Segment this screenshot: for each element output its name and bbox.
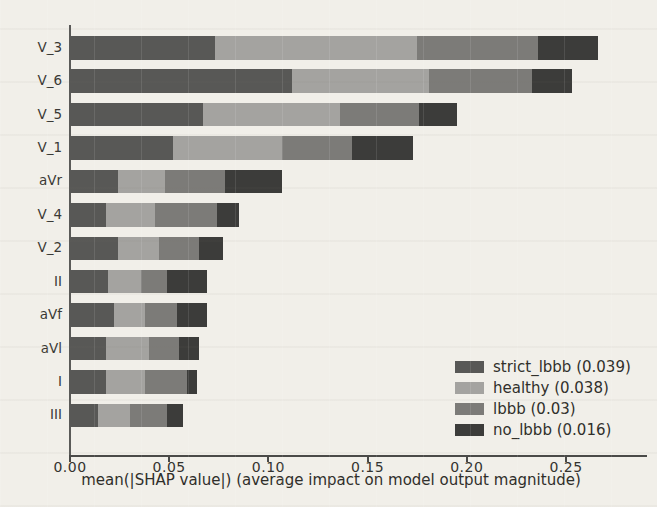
bar-segment-II-no_lbbb [167,270,207,294]
legend-label-no_lbbb: no_lbbb (0.016) [493,421,611,439]
bar-segment-V_6-healthy [292,69,429,93]
bar-segment-I-lbbb [145,370,187,394]
bar-segment-V_6-lbbb [429,69,532,93]
bar-segment-V_2-lbbb [159,237,199,261]
legend-item-healthy: healthy (0.038) [455,380,631,396]
bar-V_4 [70,203,239,227]
bar-segment-V_1-lbbb [282,136,351,160]
bar-V_5 [70,103,457,127]
bar-segment-aVf-healthy [114,303,146,327]
bar-segment-III-strict_lbbb [70,404,98,428]
bar-III [70,404,183,428]
bar-V_3 [70,36,598,60]
bar-segment-V_4-healthy [106,203,156,227]
bar-segment-V_3-no_lbbb [538,36,598,60]
bar-segment-V_4-no_lbbb [217,203,239,227]
bar-I [70,370,197,394]
bar-segment-aVr-strict_lbbb [70,170,118,194]
bar-segment-V_1-no_lbbb [352,136,414,160]
bar-aVl [70,337,199,361]
y-axis-label-V_2: V_2 [8,239,62,255]
bar-segment-V_5-strict_lbbb [70,103,203,127]
y-axis-label-V_1: V_1 [8,139,62,155]
bar-segment-V_1-healthy [173,136,282,160]
bar-segment-aVl-healthy [106,337,150,361]
legend-swatch-lbbb [455,403,484,415]
legend-label-lbbb: lbbb (0.03) [493,400,576,418]
legend: strict_lbbb (0.039)healthy (0.038)lbbb (… [455,359,631,438]
bar-segment-aVf-no_lbbb [177,303,207,327]
bar-segment-V_2-strict_lbbb [70,237,118,261]
bar-segment-V_2-no_lbbb [199,237,223,261]
y-axis-label-V_5: V_5 [8,106,62,122]
bar-segment-I-no_lbbb [187,370,197,394]
bar-V_2 [70,237,223,261]
y-axis-label-V_3: V_3 [8,39,62,55]
bar-segment-V_3-healthy [215,36,417,60]
bar-segment-aVl-strict_lbbb [70,337,106,361]
y-axis-label-aVl: aVl [8,340,62,356]
x-axis-line [69,455,647,457]
bar-segment-V_2-healthy [118,237,160,261]
bar-segment-V_5-healthy [203,103,340,127]
legend-label-healthy: healthy (0.038) [493,379,609,397]
bar-segment-V_4-lbbb [155,203,217,227]
bar-segment-V_4-strict_lbbb [70,203,106,227]
bar-segment-V_6-strict_lbbb [70,69,292,93]
bar-segment-aVr-lbbb [165,170,225,194]
bar-segment-II-lbbb [141,270,167,294]
y-axis-label-aVr: aVr [8,172,62,188]
y-axis-label-aVf: aVf [8,306,62,322]
shap-summary-figure: 0.000.050.100.150.200.25V_3V_6V_5V_1aVrV… [0,0,657,507]
legend-item-no_lbbb: no_lbbb (0.016) [455,422,631,438]
bar-V_1 [70,136,413,160]
x-axis-title: mean(|SHAP value|) (average impact on mo… [70,471,592,489]
bar-segment-I-healthy [106,370,146,394]
bar-segment-V_6-no_lbbb [532,69,572,93]
bar-segment-II-healthy [108,270,142,294]
bar-segment-aVr-healthy [118,170,166,194]
bar-II [70,270,207,294]
bar-segment-V_3-lbbb [417,36,538,60]
bar-segment-aVf-lbbb [145,303,177,327]
bar-segment-aVr-no_lbbb [225,170,283,194]
bar-segment-aVl-no_lbbb [179,337,199,361]
legend-item-strict_lbbb: strict_lbbb (0.039) [455,359,631,375]
bar-segment-II-strict_lbbb [70,270,108,294]
legend-label-strict_lbbb: strict_lbbb (0.039) [493,358,631,376]
bar-segment-I-strict_lbbb [70,370,106,394]
bar-aVr [70,170,282,194]
y-axis-label-V_6: V_6 [8,72,62,88]
bar-segment-V_5-lbbb [340,103,419,127]
bar-segment-III-lbbb [130,404,168,428]
legend-item-lbbb: lbbb (0.03) [455,401,631,417]
bar-segment-V_3-strict_lbbb [70,36,215,60]
bar-segment-III-no_lbbb [167,404,183,428]
y-axis-label-III: III [8,406,62,422]
bar-segment-III-healthy [98,404,130,428]
bar-aVf [70,303,207,327]
y-axis-label-V_4: V_4 [8,206,62,222]
legend-swatch-healthy [455,382,484,394]
bar-segment-aVl-lbbb [149,337,179,361]
legend-swatch-strict_lbbb [455,361,484,373]
bar-segment-V_5-no_lbbb [419,103,457,127]
y-axis-label-II: II [8,273,62,289]
legend-swatch-no_lbbb [455,424,484,436]
y-axis-label-I: I [8,373,62,389]
bar-segment-aVf-strict_lbbb [70,303,114,327]
bar-segment-V_1-strict_lbbb [70,136,173,160]
bar-V_6 [70,69,572,93]
